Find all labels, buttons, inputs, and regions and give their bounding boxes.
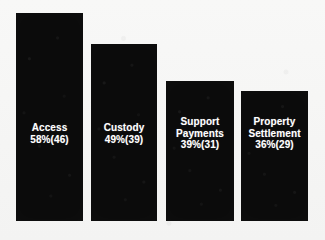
- bar-value-text: 39%(31): [166, 139, 234, 151]
- bar-value-text: 36%(29): [241, 139, 308, 151]
- bar-custody: Custody 49%(39): [91, 44, 157, 221]
- bar-label-line: Property: [241, 116, 308, 128]
- plot-area: Access 58%(46) Custody 49%(39) Support P…: [0, 0, 325, 240]
- bar-label-line: Custody: [91, 122, 157, 134]
- bar-value-text: 58%(46): [16, 134, 83, 146]
- bar-label-line: Payments: [166, 128, 234, 140]
- bar-chart: Access 58%(46) Custody 49%(39) Support P…: [0, 0, 325, 240]
- bar-property-settlement: Property Settlement 36%(29): [241, 91, 308, 221]
- bar-label-custody: Custody 49%(39): [91, 122, 157, 145]
- bar-label-line: Support: [166, 116, 234, 128]
- bar-access: Access 58%(46): [16, 13, 83, 221]
- bar-value-text: 49%(39): [91, 134, 157, 146]
- bar-label-access: Access 58%(46): [16, 122, 83, 145]
- bar-support-payments: Support Payments 39%(31): [166, 81, 234, 221]
- bar-label-line: Settlement: [241, 128, 308, 140]
- bar-label-property-settlement: Property Settlement 36%(29): [241, 116, 308, 151]
- bar-label-support-payments: Support Payments 39%(31): [166, 116, 234, 151]
- bar-label-line: Access: [16, 122, 83, 134]
